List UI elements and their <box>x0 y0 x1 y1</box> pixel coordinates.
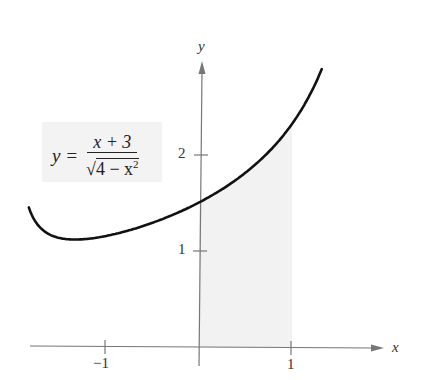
x-tick-label-neg1: −1 <box>93 355 109 372</box>
equation-denominator: √4 − x2 <box>86 153 139 180</box>
y-tick-label-2: 2 <box>178 145 186 162</box>
x-axis-label: x <box>392 339 399 356</box>
radicand-text: 4 − x <box>96 159 133 179</box>
y-tick-label-1: 1 <box>178 241 186 258</box>
y-axis-label: y <box>198 38 205 55</box>
equation-label: y = x + 3 √4 − x2 <box>52 132 139 180</box>
y-axis-arrow-icon <box>199 61 206 74</box>
radicand: 4 − x2 <box>96 158 139 179</box>
equation-numerator: x + 3 <box>87 132 137 153</box>
function-plot <box>0 0 428 380</box>
radicand-exponent: 2 <box>133 158 139 170</box>
x-axis-arrow-icon <box>371 345 384 352</box>
sqrt-icon: √ <box>86 159 96 179</box>
equation-fraction: x + 3 √4 − x2 <box>86 132 139 180</box>
x-tick-label-1: 1 <box>287 356 295 373</box>
equation-lhs: y = <box>52 145 78 167</box>
shaded-area-region <box>199 124 292 348</box>
numerator-text: x + 3 <box>93 132 131 152</box>
